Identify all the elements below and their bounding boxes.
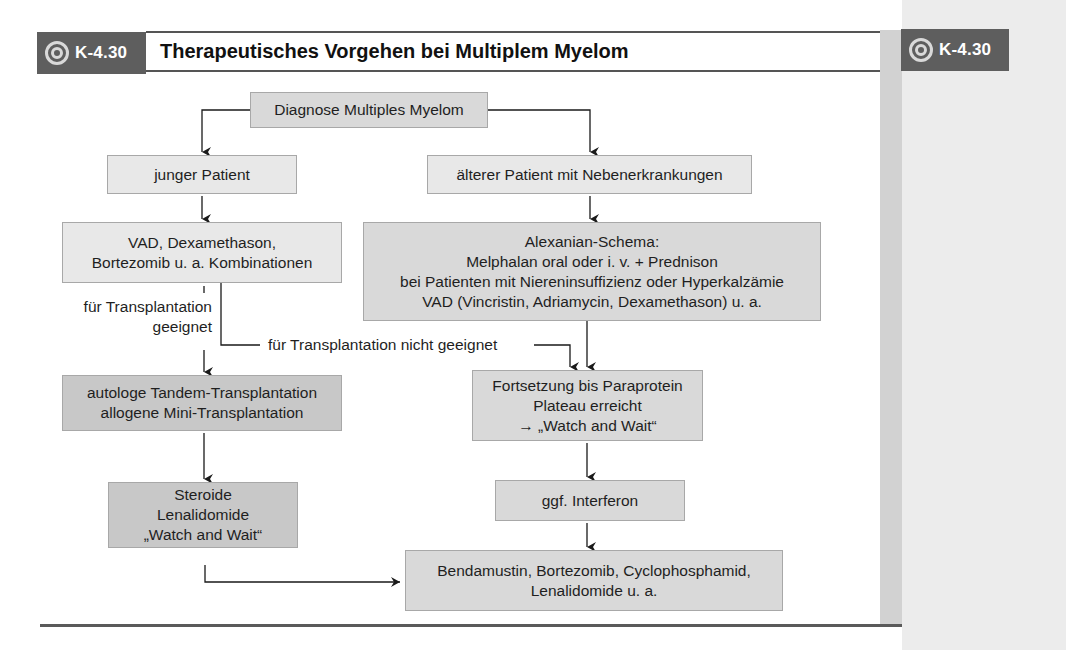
node-transplantation-line: allogene Mini-Transplantation: [101, 403, 304, 423]
node-continuation-line: Plateau erreicht: [533, 396, 642, 416]
node-diagnosis-text: Diagnose Multiples Myelom: [274, 100, 464, 120]
node-young-patient-text: junger Patient: [154, 165, 250, 185]
node-young-initial-therapy-line: Bortezomib u. a. Kombinationen: [92, 253, 313, 273]
node-elderly-patient: älterer Patient mit Nebenerkrankungen: [427, 155, 752, 194]
node-elderly-patient-text: älterer Patient mit Nebenerkrankungen: [456, 165, 722, 185]
label-transplant-suitable: für Transplantation geeignet: [40, 297, 212, 337]
node-maintenance-line: Lenalidomide: [157, 505, 249, 525]
target-icon: [909, 38, 933, 62]
node-continuation-line: → „Watch and Wait“: [518, 416, 656, 436]
margin-stripe: [880, 30, 902, 626]
node-elderly-initial-therapy-line: VAD (Vincristin, Adriamycin, Dexamethaso…: [422, 292, 762, 312]
margin-figure-number: K-4.30: [939, 40, 991, 60]
node-maintenance: Steroide Lenalidomide „Watch and Wait“: [108, 482, 298, 548]
node-continuation-line: Fortsetzung bis Paraprotein: [492, 376, 682, 396]
label-transplant-suitable-line: für Transplantation: [40, 297, 212, 317]
label-transplant-suitable-line: geeignet: [40, 317, 212, 337]
node-maintenance-line: „Watch and Wait“: [144, 525, 263, 545]
node-elderly-initial-therapy-line: Alexanian-Schema:: [525, 232, 659, 252]
node-continuation: Fortsetzung bis Paraprotein Plateau erre…: [472, 370, 703, 441]
node-diagnosis: Diagnose Multiples Myelom: [250, 92, 488, 128]
node-interferon: ggf. Interferon: [495, 480, 685, 521]
node-elderly-initial-therapy-line: bei Patienten mit Niereninsuffizienz ode…: [400, 272, 784, 292]
label-transplant-not-suitable-text: für Transplantation nicht geeignet: [268, 336, 497, 353]
figure-title: Therapeutisches Vorgehen bei Multiplem M…: [146, 31, 880, 72]
node-young-initial-therapy-line: VAD, Dexamethason,: [128, 233, 276, 253]
page-margin-panel: [902, 0, 1066, 650]
node-relapse-therapy-line: Bendamustin, Bortezomib, Cyclophosphamid…: [437, 561, 751, 581]
figure-number: K-4.30: [75, 43, 127, 63]
node-elderly-initial-therapy: Alexanian-Schema: Melphalan oral oder i.…: [363, 222, 821, 321]
node-young-patient: junger Patient: [107, 155, 297, 194]
node-maintenance-line: Steroide: [174, 485, 232, 505]
node-young-initial-therapy: VAD, Dexamethason, Bortezomib u. a. Komb…: [62, 222, 342, 283]
figure-bottom-rule: [40, 624, 902, 627]
target-icon: [45, 41, 69, 65]
node-transplantation: autologe Tandem-Transplantation allogene…: [62, 375, 342, 431]
margin-figure-badge: K-4.30: [901, 29, 1009, 71]
figure-badge: K-4.30: [37, 32, 146, 74]
node-transplantation-line: autologe Tandem-Transplantation: [87, 383, 317, 403]
node-elderly-initial-therapy-line: Melphalan oral oder i. v. + Prednison: [466, 252, 718, 272]
node-relapse-therapy: Bendamustin, Bortezomib, Cyclophosphamid…: [405, 550, 783, 611]
figure-title-text: Therapeutisches Vorgehen bei Multiplem M…: [160, 40, 629, 63]
node-interferon-text: ggf. Interferon: [542, 491, 639, 511]
label-transplant-not-suitable: für Transplantation nicht geeignet: [268, 335, 497, 355]
node-relapse-therapy-line: Lenalidomide u. a.: [531, 581, 658, 601]
